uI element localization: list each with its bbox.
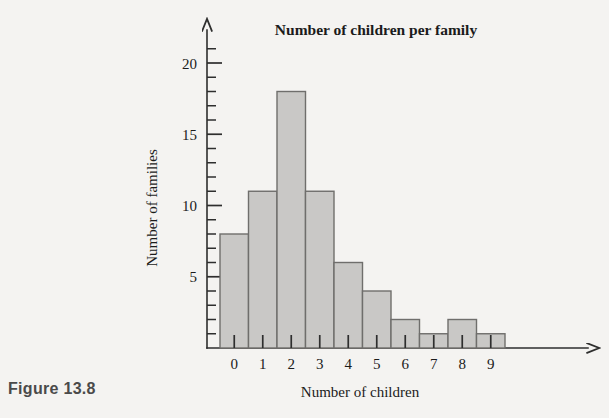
histogram-bar xyxy=(306,191,335,348)
x-tick-label: 3 xyxy=(316,356,324,372)
bar-series xyxy=(220,92,505,349)
histogram-bar xyxy=(249,191,278,348)
chart-title: Number of children per family xyxy=(275,21,478,38)
x-tick-label: 6 xyxy=(402,356,410,372)
x-tick-label: 5 xyxy=(373,356,381,372)
y-tick-label: 20 xyxy=(182,56,197,72)
x-tick-label: 4 xyxy=(345,356,353,372)
figure-container: Number of children per family Number of … xyxy=(0,0,609,418)
y-tick-label: 10 xyxy=(182,198,197,214)
x-tick-label: 8 xyxy=(459,356,467,372)
x-tick-label: 0 xyxy=(231,356,239,372)
figure-caption: Figure 13.8 xyxy=(8,380,96,398)
histogram-bar xyxy=(277,92,306,349)
x-tick-label: 2 xyxy=(288,356,296,372)
y-axis-title: Number of families xyxy=(144,149,160,267)
y-tick-label: 15 xyxy=(182,127,197,143)
y-axis-tick-labels: 5101520 xyxy=(182,56,197,286)
histogram-chart: Number of children per family Number of … xyxy=(0,0,609,418)
histogram-bar xyxy=(220,234,249,348)
x-tick-label: 9 xyxy=(487,356,495,372)
x-tick-label: 7 xyxy=(430,356,438,372)
y-tick-label: 5 xyxy=(190,269,198,285)
x-axis-title: Number of children xyxy=(301,384,420,400)
x-tick-label: 1 xyxy=(259,356,267,372)
x-axis-tick-labels: 0123456789 xyxy=(231,356,495,372)
